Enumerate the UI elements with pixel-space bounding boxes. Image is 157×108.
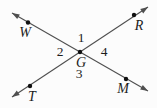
arrowhead-TR-start [12, 91, 20, 97]
point-label-R: R [134, 18, 144, 33]
arrowhead-WM-end [140, 85, 148, 91]
angle-label-1: 1 [78, 30, 85, 45]
point-label-W: W [19, 25, 32, 40]
angle-label-4: 4 [101, 44, 108, 59]
point-label-M: M [116, 81, 130, 96]
angle-label-3: 3 [76, 66, 83, 81]
geometry-diagram: WRTMG1234 [0, 0, 157, 108]
point-dot-T [28, 84, 32, 88]
point-label-T: T [28, 89, 37, 104]
arrowhead-TR-end [140, 7, 148, 13]
point-dot-R [132, 13, 136, 17]
point-dot-G [78, 50, 82, 54]
angle-label-2: 2 [57, 44, 64, 59]
arrowhead-WM-start [12, 13, 20, 19]
